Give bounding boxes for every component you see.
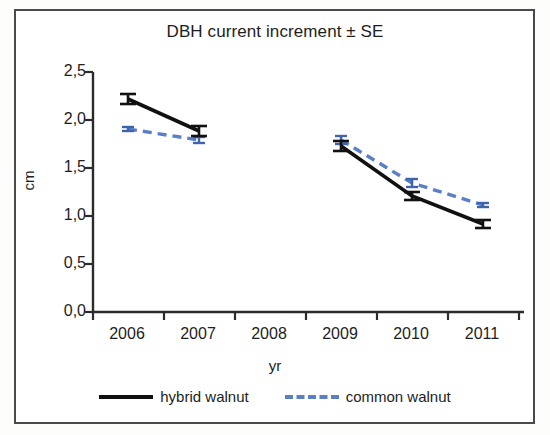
figure: DBH current increment ± SE cm 2,5 2,0 1,… (0, 0, 550, 435)
legend-item-hybrid-walnut[interactable]: hybrid walnut (99, 388, 248, 405)
series-hybrid-walnut (120, 94, 491, 228)
legend-item-common-walnut[interactable]: common walnut (285, 388, 451, 405)
series-common-walnut-error-bars (122, 127, 489, 207)
legend-label-hybrid-walnut: hybrid walnut (160, 388, 248, 405)
legend-label-common-walnut: common walnut (346, 388, 451, 405)
chart-legend: hybrid walnut common walnut (0, 388, 550, 405)
series-hybrid-walnut-segment-2006-2007 (128, 99, 199, 131)
series-common-walnut-segment-2006-2007 (128, 129, 199, 140)
series-hybrid-walnut-error-bars (120, 94, 491, 228)
legend-line-dashed-icon (285, 395, 339, 399)
x-axis-ticks (93, 312, 519, 320)
legend-line-solid-icon (99, 395, 153, 399)
x-axis-title: yr (0, 357, 550, 374)
series-common-walnut (122, 127, 489, 207)
